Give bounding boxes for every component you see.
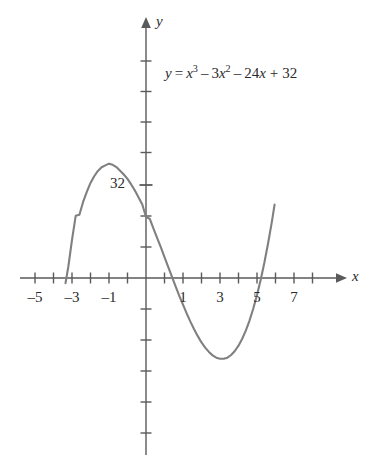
y-axis-label: y	[156, 14, 163, 29]
equation-term2-base: x	[219, 65, 226, 81]
equation-operator-3: +	[270, 65, 278, 81]
equation-term1-base: x	[186, 65, 193, 81]
equation-annotation: y=x3–3x2–24x+32	[165, 66, 297, 81]
equation-operator-2: –	[234, 65, 242, 81]
equation-term2-exponent: 2	[226, 63, 231, 74]
equation-operator-1: –	[201, 65, 209, 81]
x-tick-label-1: 1	[179, 290, 187, 305]
x-tick-label-3: 3	[216, 290, 224, 305]
y-tick-label-32: 32	[110, 176, 125, 191]
y-axis-arrow-icon	[141, 17, 151, 28]
equation-constant: 32	[282, 65, 297, 81]
equation-equals: =	[175, 65, 183, 81]
equation-term1-exponent: 3	[193, 63, 198, 74]
x-tick-label-5: 5	[253, 290, 261, 305]
x-tick-label-neg5: –5	[28, 290, 43, 305]
equation-term2-coefficient: 3	[211, 65, 219, 81]
graph-figure: y x 32 –5 –3 –1 1 3 5 7 y=x3–3x2–24x+32	[0, 0, 377, 462]
x-tick-label-7: 7	[290, 290, 298, 305]
x-tick-label-neg1: –1	[102, 290, 117, 305]
x-axis-arrow-icon	[336, 273, 347, 283]
x-tick-label-neg3: –3	[65, 290, 80, 305]
equation-lhs: y	[165, 65, 172, 81]
cubic-curve	[66, 164, 275, 359]
x-axis-label: x	[352, 269, 359, 284]
equation-term3-coefficient: 24	[244, 65, 259, 81]
equation-term3-variable: x	[259, 65, 266, 81]
